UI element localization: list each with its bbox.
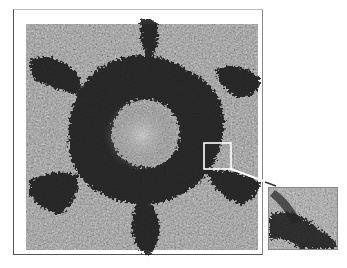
inset-magnified-view: [269, 188, 337, 249]
main-image-panel: [0, 0, 347, 268]
